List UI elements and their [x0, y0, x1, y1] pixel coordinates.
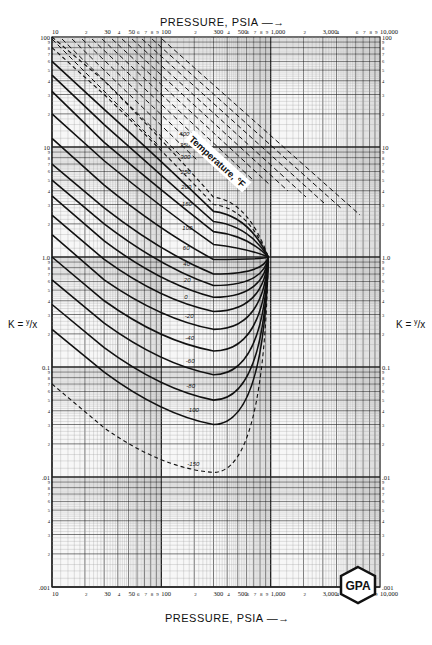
- svg-text:.001: .001: [382, 584, 393, 591]
- svg-text:9: 9: [266, 592, 269, 597]
- svg-text:-80: -80: [186, 383, 195, 389]
- svg-text:3: 3: [48, 423, 51, 428]
- svg-text:3: 3: [382, 313, 385, 318]
- svg-text:3: 3: [382, 203, 385, 208]
- svg-text:200: 200: [180, 184, 192, 190]
- svg-text:8: 8: [382, 486, 385, 491]
- svg-text:5: 5: [48, 398, 51, 403]
- svg-text:6: 6: [356, 30, 359, 35]
- svg-text:6: 6: [137, 30, 140, 35]
- svg-text:2: 2: [382, 552, 384, 557]
- svg-text:3: 3: [48, 203, 51, 208]
- svg-text:3,000: 3,000: [323, 28, 338, 35]
- svg-text:6: 6: [48, 169, 51, 174]
- svg-text:6: 6: [48, 389, 51, 394]
- svg-text:100: 100: [161, 590, 171, 597]
- svg-text:50: 50: [128, 28, 135, 35]
- svg-text:4: 4: [382, 189, 385, 194]
- svg-text:6: 6: [48, 499, 51, 504]
- svg-text:6: 6: [246, 592, 249, 597]
- svg-text:8: 8: [382, 156, 385, 161]
- svg-text:4: 4: [48, 189, 51, 194]
- svg-text:9: 9: [48, 480, 51, 485]
- svg-text:4: 4: [118, 30, 121, 35]
- svg-text:7: 7: [382, 492, 385, 497]
- svg-text:250: 250: [180, 169, 192, 175]
- svg-text:2: 2: [194, 30, 197, 35]
- svg-text:3: 3: [382, 423, 385, 428]
- svg-text:300: 300: [213, 28, 223, 35]
- svg-text:8: 8: [369, 30, 372, 35]
- svg-text:9: 9: [48, 40, 51, 45]
- svg-text:-150: -150: [187, 461, 200, 467]
- svg-text:5: 5: [382, 288, 385, 293]
- svg-text:5: 5: [48, 508, 51, 513]
- svg-text:7: 7: [363, 30, 366, 35]
- svg-text:10: 10: [52, 590, 59, 597]
- svg-text:4: 4: [48, 409, 51, 414]
- svg-text:10: 10: [52, 28, 59, 35]
- svg-text:30: 30: [104, 590, 111, 597]
- svg-text:9: 9: [156, 592, 159, 597]
- svg-text:7: 7: [144, 30, 147, 35]
- svg-text:150: 150: [182, 201, 193, 207]
- svg-text:4: 4: [336, 30, 339, 35]
- svg-text:8: 8: [48, 486, 51, 491]
- svg-text:2: 2: [85, 30, 88, 35]
- svg-text:7: 7: [382, 162, 385, 167]
- svg-text:7: 7: [48, 272, 51, 277]
- svg-text:6: 6: [382, 389, 385, 394]
- svg-text:8: 8: [382, 46, 385, 51]
- svg-text:50: 50: [128, 590, 135, 597]
- svg-text:4: 4: [227, 592, 230, 597]
- svg-text:20: 20: [183, 277, 191, 283]
- svg-text:5: 5: [382, 178, 385, 183]
- k-value-chart: 1010223030445050667788991001002230030044…: [0, 0, 432, 645]
- svg-text:9: 9: [48, 150, 51, 155]
- svg-text:6: 6: [382, 499, 385, 504]
- svg-text:6: 6: [382, 169, 385, 174]
- svg-text:7: 7: [48, 162, 51, 167]
- svg-text:8: 8: [48, 266, 51, 271]
- svg-text:7: 7: [382, 52, 385, 57]
- svg-text:6: 6: [382, 59, 385, 64]
- svg-text:2: 2: [382, 332, 384, 337]
- svg-text:2: 2: [48, 112, 50, 117]
- svg-text:1,000: 1,000: [271, 590, 286, 597]
- svg-text:3: 3: [48, 93, 51, 98]
- svg-text:6: 6: [246, 30, 249, 35]
- svg-text:8: 8: [48, 376, 51, 381]
- svg-text:3: 3: [382, 93, 385, 98]
- svg-text:8: 8: [260, 592, 263, 597]
- svg-text:8: 8: [382, 376, 385, 381]
- svg-text:30: 30: [104, 28, 111, 35]
- svg-text:7: 7: [382, 382, 385, 387]
- svg-text:2: 2: [304, 30, 307, 35]
- svg-text:3: 3: [382, 533, 385, 538]
- svg-text:6: 6: [137, 592, 140, 597]
- svg-text:.001: .001: [39, 584, 50, 591]
- svg-text:4: 4: [48, 79, 51, 84]
- svg-text:5: 5: [48, 68, 51, 73]
- svg-text:7: 7: [254, 592, 257, 597]
- svg-text:7: 7: [48, 382, 51, 387]
- svg-text:4: 4: [227, 30, 230, 35]
- svg-text:2: 2: [48, 222, 50, 227]
- svg-text:4: 4: [118, 592, 121, 597]
- svg-text:6: 6: [48, 279, 51, 284]
- svg-text:5: 5: [48, 178, 51, 183]
- svg-text:60: 60: [183, 245, 190, 251]
- svg-text:10,000: 10,000: [380, 590, 398, 597]
- svg-text:300: 300: [213, 590, 223, 597]
- svg-text:5: 5: [382, 68, 385, 73]
- svg-text:5: 5: [48, 288, 51, 293]
- svg-text:9: 9: [48, 370, 51, 375]
- svg-text:2: 2: [382, 442, 384, 447]
- svg-text:8: 8: [48, 46, 51, 51]
- svg-text:9: 9: [266, 30, 269, 35]
- svg-text:-20: -20: [185, 313, 194, 319]
- svg-text:100: 100: [161, 28, 171, 35]
- svg-text:2: 2: [48, 442, 50, 447]
- svg-text:-100: -100: [187, 407, 200, 413]
- svg-text:5: 5: [382, 398, 385, 403]
